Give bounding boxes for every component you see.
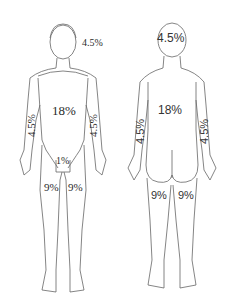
back-trunk-percent: 18%: [158, 104, 182, 116]
back-left-arm-percent: 4.5%: [135, 119, 146, 144]
front-right-arm-percent: 4.5%: [88, 114, 99, 137]
front-head-percent: 4.5%: [82, 38, 103, 48]
front-trunk-percent: 18%: [52, 104, 76, 117]
front-groin-percent: 1%: [56, 156, 69, 166]
back-right-leg-percent: 9%: [178, 190, 194, 201]
back-head-percent: 4.5%: [157, 32, 184, 44]
back-left-leg-percent: 9%: [151, 190, 167, 201]
front-left-arm-percent: 4.5%: [26, 114, 37, 137]
front-left-leg-percent: 9%: [44, 182, 59, 193]
front-right-leg-percent: 9%: [68, 182, 83, 193]
body-outline-figures: [0, 0, 235, 304]
back-right-arm-percent: 4.5%: [199, 119, 210, 144]
back-figure-outline: [128, 23, 216, 288]
